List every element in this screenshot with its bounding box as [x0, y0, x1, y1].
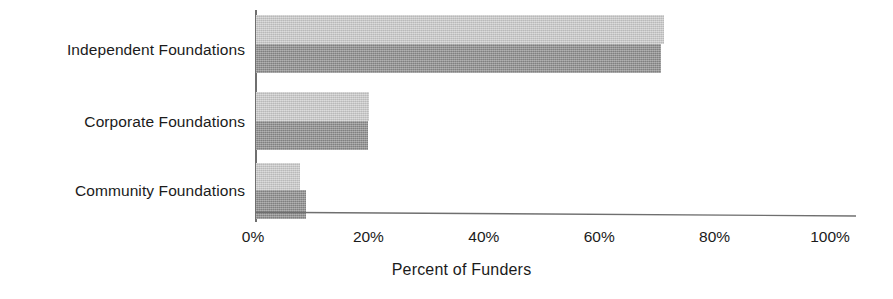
x-tick-label-0: 0%	[242, 229, 264, 245]
bar-corporate-series2	[256, 121, 368, 150]
bar-community-series1	[256, 163, 300, 190]
x-tick-label-80: 80%	[699, 229, 730, 245]
category-label-independent-foundations: Independent Foundations	[67, 42, 245, 58]
category-label-community-foundations: Community Foundations	[75, 183, 245, 199]
x-tick-label-20: 20%	[353, 229, 384, 245]
x-axis-line	[255, 211, 856, 223]
x-axis-title: Percent of Funders	[0, 262, 893, 278]
bar-independent-series2	[256, 44, 661, 73]
bar-corporate-series1	[256, 92, 369, 121]
x-axis-title-text: Percent of Funders	[392, 261, 532, 278]
x-tick-label-100: 100%	[810, 229, 850, 245]
x-tick-label-40: 40%	[468, 229, 499, 245]
bar-independent-series1	[256, 15, 664, 44]
plot-area	[255, 10, 855, 222]
bar-chart: Independent Foundations Corporate Founda…	[0, 0, 893, 299]
x-tick-label-60: 60%	[584, 229, 615, 245]
category-label-corporate-foundations: Corporate Foundations	[84, 114, 245, 130]
